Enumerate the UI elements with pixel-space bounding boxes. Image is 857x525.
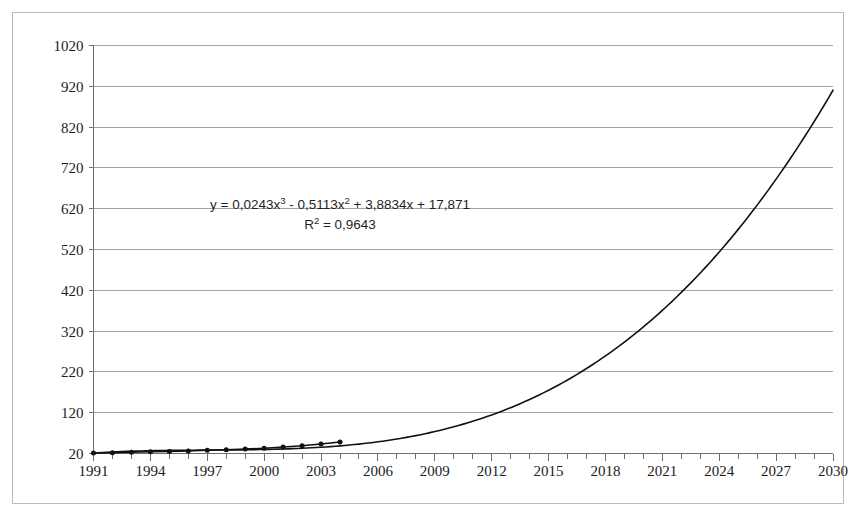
gridlines (94, 46, 834, 413)
y-tick-label: 220 (61, 364, 84, 380)
data-point-marker (186, 449, 191, 454)
equation-line: y = 0,0243x3 - 0,5113x2 + 3,8834x + 17,8… (210, 195, 470, 212)
data-point-marker (300, 443, 305, 448)
y-axis-ticks (89, 46, 94, 454)
y-tick-label: 820 (61, 120, 84, 136)
data-point-marker (338, 440, 343, 445)
x-axis-tick-labels: 1991199419972000200320062009201220152018… (79, 463, 849, 479)
data-point-marker (110, 450, 115, 455)
x-tick-label: 2012 (477, 463, 507, 479)
x-tick-label: 2018 (590, 463, 620, 479)
data-point-marker (319, 442, 324, 447)
data-point-marker (148, 449, 153, 454)
y-tick-label: 620 (61, 201, 84, 217)
x-tick-label: 2027 (761, 463, 792, 479)
x-tick-label: 2021 (647, 463, 677, 479)
x-tick-label: 2015 (534, 463, 564, 479)
data-point-marker (243, 447, 248, 452)
data-point-marker (129, 450, 134, 455)
y-tick-label: 320 (61, 324, 84, 340)
trendline-equation-annotation: y = 0,0243x3 - 0,5113x2 + 3,8834x + 17,8… (210, 195, 470, 232)
data-point-marker (281, 444, 286, 449)
chart-plot-area: 201202203204205206207208209201020 199119… (0, 0, 857, 525)
x-tick-label: 2030 (818, 463, 848, 479)
data-point-marker (167, 449, 172, 454)
x-tick-label: 2000 (249, 463, 279, 479)
x-tick-label: 2003 (306, 463, 336, 479)
data-point-marker (262, 446, 267, 451)
x-tick-label: 1991 (79, 463, 109, 479)
y-tick-label: 920 (61, 79, 84, 95)
x-tick-label: 2006 (363, 463, 394, 479)
y-tick-label: 20 (69, 446, 84, 462)
r-squared-line: R2 = 0,9643 (304, 215, 376, 232)
chart-container: 201202203204205206207208209201020 199119… (0, 0, 857, 525)
y-axis-tick-labels: 201202203204205206207208209201020 (54, 38, 84, 462)
y-tick-label: 520 (61, 242, 84, 258)
y-tick-label: 120 (61, 405, 84, 421)
x-tick-label: 2024 (704, 463, 735, 479)
x-tick-label: 1997 (192, 463, 223, 479)
x-axis-ticks (94, 454, 834, 461)
x-tick-label: 1994 (135, 463, 166, 479)
data-point-marker (91, 451, 96, 456)
x-tick-label: 2009 (420, 463, 450, 479)
y-tick-label: 1020 (54, 38, 84, 54)
cubic-trendline-path (94, 90, 834, 453)
data-point-marker (205, 448, 210, 453)
data-point-marker (224, 447, 229, 452)
y-tick-label: 720 (61, 160, 84, 176)
y-tick-label: 420 (61, 283, 84, 299)
